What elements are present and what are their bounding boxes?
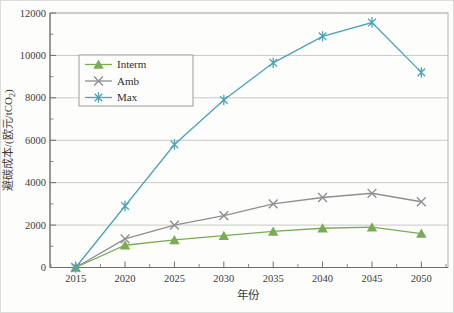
asterisk-marker: [368, 17, 376, 27]
cost-line-chart: 0200040006000800010000120002015202020252…: [1, 1, 454, 313]
x-tick-label: 2050: [411, 273, 432, 284]
legend: IntermAmbMax: [79, 55, 193, 106]
x-tick-label: 2030: [213, 273, 234, 284]
figure-canvas: 0200040006000800010000120002015202020252…: [0, 0, 454, 313]
legend-label-interm: Interm: [117, 58, 147, 70]
y-tick-label: 4000: [25, 177, 46, 188]
y-tick-label: 10000: [20, 50, 46, 61]
legend-label-amb: Amb: [117, 75, 140, 87]
y-tick-label: 8000: [25, 92, 46, 103]
x-tick-label: 2020: [115, 273, 136, 284]
asterisk-marker: [220, 95, 228, 105]
asterisk-marker: [269, 58, 277, 68]
x-tick-label: 2025: [164, 273, 185, 284]
y-tick-label: 2000: [25, 220, 46, 231]
y-tick-label: 12000: [20, 8, 46, 19]
y-tick-label: 0: [41, 262, 46, 273]
asterisk-marker: [319, 31, 327, 41]
y-axis-label: 避碳成本/(欧元/tCO2): [1, 89, 17, 191]
legend-label-max: Max: [117, 91, 138, 103]
y-tick-label: 6000: [25, 135, 46, 146]
x-tick-label: 2040: [312, 273, 333, 284]
x-tick-label: 2035: [263, 273, 284, 284]
asterisk-marker: [418, 67, 426, 77]
x-tick-label: 2045: [361, 273, 382, 284]
x-tick-label: 2015: [65, 273, 86, 284]
x-axis-label: 年份: [237, 288, 260, 301]
